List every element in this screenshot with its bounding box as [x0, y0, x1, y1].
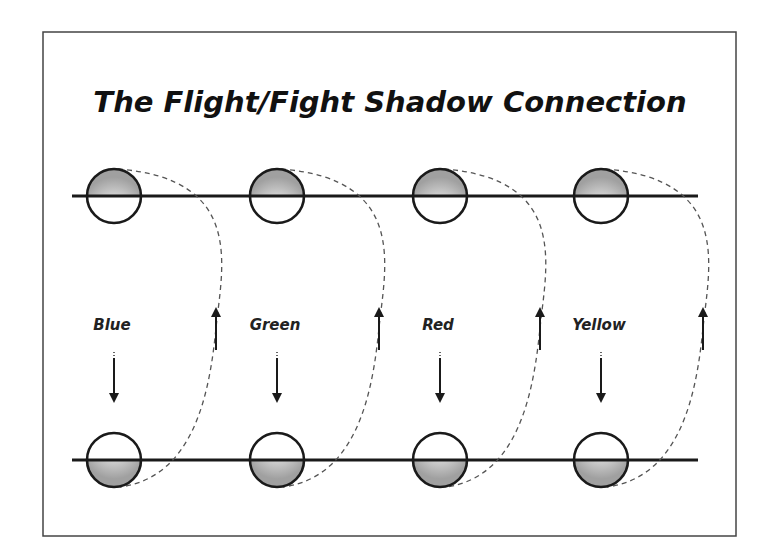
stage-label: Blue [93, 316, 130, 334]
flight-fight-diagram: The Flight/Fight Shadow Connection BlueG… [0, 0, 770, 555]
stage-blue: Blue [87, 169, 222, 487]
diagram-title: The Flight/Fight Shadow Connection [93, 85, 686, 119]
stage-yellow: Yellow [572, 169, 709, 487]
stage-green: Green [250, 169, 385, 487]
stage-label: Green [250, 316, 301, 334]
stage-red: Red [413, 169, 546, 487]
return-path-dashed-arc [118, 169, 222, 487]
stage-label: Yellow [572, 316, 626, 334]
stages-group: BlueGreenRedYellow [87, 169, 709, 487]
stage-label: Red [422, 316, 454, 334]
